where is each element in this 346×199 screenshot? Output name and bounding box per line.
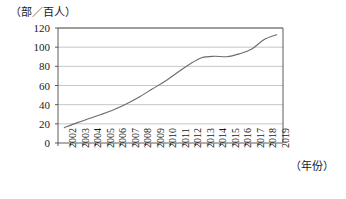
x-tick-label: 2009 (156, 128, 166, 148)
x-tick-label: 2019 (281, 128, 291, 148)
y-tick-label: 80 (20, 61, 50, 72)
x-tick-label: 2002 (68, 128, 78, 148)
x-tick-label: 2010 (168, 128, 178, 148)
x-tick-label: 2014 (218, 128, 228, 148)
x-tick-label: 2016 (243, 128, 253, 148)
x-tick-label: 2015 (231, 128, 241, 148)
line-chart-plot (0, 0, 346, 199)
x-tick-label: 2012 (193, 128, 203, 148)
x-tick-label: 2007 (131, 128, 141, 148)
x-tick-label: 2013 (206, 128, 216, 148)
x-tick-label: 2003 (81, 128, 91, 148)
x-tick-label: 2011 (181, 128, 191, 148)
x-tick-label: 2017 (256, 128, 266, 148)
x-tick-label: 2006 (118, 128, 128, 148)
y-tick-label: 100 (20, 42, 50, 53)
x-tick-label: 2018 (268, 128, 278, 148)
x-tick-label: 2005 (106, 128, 116, 148)
y-tick-label: 20 (20, 119, 50, 130)
y-tick-label: 60 (20, 81, 50, 92)
gridlines-group (58, 28, 283, 124)
y-tick-label: 120 (20, 23, 50, 34)
x-tick-label: 2008 (143, 128, 153, 148)
y-tick-label: 40 (20, 100, 50, 111)
data-series-line (64, 35, 277, 128)
x-tick-label: 2004 (93, 128, 103, 148)
chart-figure: （部／百人） （年份） 020406080100120 200220032004… (0, 0, 346, 199)
y-tick-label: 0 (20, 138, 50, 149)
